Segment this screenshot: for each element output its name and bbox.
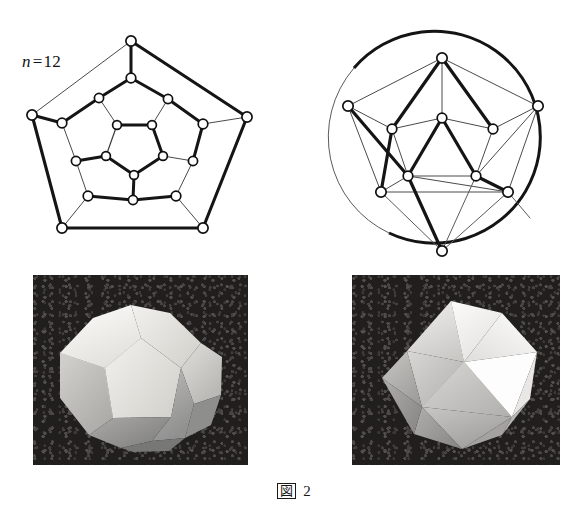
graph-vertex [130, 171, 139, 180]
graph-vertex [126, 73, 136, 83]
dodecahedron-schlegel-panel: n=12 [0, 0, 294, 258]
edge-ring [131, 78, 168, 99]
edge-outer [203, 117, 247, 228]
graph-vertex [488, 124, 498, 134]
dodecahedron-edges [32, 41, 247, 228]
icosahedron-model-svg [352, 275, 560, 465]
edge-strut [381, 129, 392, 192]
edge-ring [62, 98, 99, 123]
icosahedron-photo-panel [352, 275, 560, 465]
equals-sign: = [32, 52, 44, 71]
caption-number: 2 [296, 483, 311, 499]
n-variable: n [22, 52, 32, 71]
icosahedron-schlegel-panel: n=20 [294, 0, 588, 258]
icosahedron-graph-svg [294, 0, 588, 258]
graph-vertex [94, 93, 103, 102]
graph-vertex [128, 195, 137, 204]
figure-caption: 図2 [0, 483, 588, 500]
edge-strut [348, 106, 392, 129]
graph-vertex [159, 152, 168, 161]
graph-vertex [102, 152, 111, 161]
edge-spoke [203, 117, 247, 124]
graph-vertex [198, 119, 208, 129]
graph-vertex [198, 223, 208, 233]
edge-outer [32, 115, 62, 228]
graph-vertex [126, 36, 136, 46]
caption-kanji-zu: 図 [277, 483, 296, 499]
graph-vertex [188, 156, 197, 165]
edge-inner-triangle [442, 118, 476, 176]
graph-vertex [437, 246, 447, 256]
icosahedron-faces [382, 301, 537, 449]
edge-ring [193, 124, 203, 161]
graph-vertex [27, 110, 37, 120]
dodecahedron-photo-panel [33, 275, 248, 465]
icosahedron-vertices [343, 53, 543, 256]
edge-ring [88, 196, 133, 200]
graph-vertex [471, 171, 481, 181]
edge-ring [176, 161, 193, 196]
dodecahedron-model-svg [33, 275, 248, 465]
graph-vertex [376, 187, 386, 197]
graph-vertex [437, 53, 447, 63]
graph-vertex [57, 223, 67, 233]
graph-vertex [437, 113, 447, 123]
figure-2: n=12 [0, 0, 588, 516]
graph-vertex [113, 121, 122, 130]
edge-middle [476, 129, 493, 176]
edge-spoke [62, 196, 88, 228]
edge-ring [99, 78, 131, 98]
graph-vertex [387, 124, 397, 134]
graph-vertex [533, 101, 543, 111]
graph-vertex [163, 94, 172, 103]
icosahedron-edges [348, 58, 538, 251]
dodecahedron-graph-svg [0, 0, 294, 258]
icosahedron-photo-background [352, 275, 560, 465]
edge-strut [442, 58, 493, 129]
graph-vertex [403, 171, 413, 181]
dodecahedron-faces [60, 305, 222, 452]
dodecahedron-photo-background [33, 275, 248, 465]
graph-vertex [148, 121, 157, 130]
edge-inner-triangle [408, 118, 442, 176]
edge-outer [131, 41, 247, 117]
graph-vertex [71, 156, 80, 165]
edge-spoke [176, 196, 203, 228]
graph-vertex [503, 187, 513, 197]
edge-ring [62, 123, 76, 161]
edge-strut [392, 58, 442, 129]
outer-circle-light-arc [328, 68, 389, 233]
dodecahedron-n-label: n=12 [22, 52, 61, 72]
edge-outer-chord [348, 106, 381, 192]
graph-vertex [171, 191, 181, 201]
graph-vertex [83, 191, 93, 201]
edge-ring [133, 196, 176, 200]
n-value: 12 [44, 52, 61, 71]
graph-vertex [242, 112, 252, 122]
edge-outer-chord [348, 58, 442, 106]
edge-ring [168, 99, 203, 124]
graph-vertex [57, 118, 67, 128]
graph-vertex [343, 101, 353, 111]
